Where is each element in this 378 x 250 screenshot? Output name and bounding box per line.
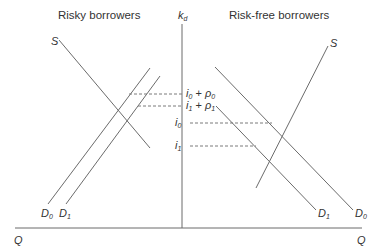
rate-label-i0: i0 bbox=[175, 117, 181, 129]
rate-operator: + bbox=[192, 99, 205, 111]
left-supply-label: S bbox=[51, 36, 58, 47]
axis-label-sub: d bbox=[184, 15, 188, 22]
rate-premium-sub: 0 bbox=[211, 93, 215, 100]
rate-sub: 1 bbox=[177, 145, 181, 152]
left-demand-d0-curve bbox=[48, 68, 150, 204]
label-sub: 0 bbox=[363, 213, 367, 220]
left-d0-label: D0 bbox=[41, 208, 53, 220]
label-sub: 1 bbox=[326, 213, 330, 220]
right-d1-label: D1 bbox=[318, 208, 330, 220]
rate-operator: + bbox=[192, 87, 205, 99]
right-panel-title: Risk-free borrowers bbox=[229, 10, 329, 22]
horizontal-axis-label-right: Q bbox=[357, 235, 366, 246]
right-demand-d1-curve bbox=[216, 106, 316, 210]
left-d1-label: D1 bbox=[59, 208, 71, 220]
right-d0-label: D0 bbox=[355, 208, 367, 220]
horizontal-axis-label-left: Q bbox=[14, 235, 23, 246]
left-demand-d1-curve bbox=[66, 76, 160, 204]
left-panel-title: Risky borrowers bbox=[58, 10, 140, 22]
right-demand-d0-curve bbox=[215, 67, 353, 210]
vertical-axis-label: kd bbox=[178, 10, 187, 22]
label-base: D bbox=[41, 207, 49, 219]
label-sub: 0 bbox=[49, 213, 53, 220]
label-base: D bbox=[355, 207, 363, 219]
label-base: D bbox=[59, 207, 67, 219]
rate-sub: 0 bbox=[177, 122, 181, 129]
right-supply-label: S bbox=[330, 38, 337, 49]
rate-premium-sub: 1 bbox=[211, 105, 215, 112]
label-base: D bbox=[318, 207, 326, 219]
right-supply-curve bbox=[256, 46, 328, 188]
label-sub: 1 bbox=[67, 213, 71, 220]
rate-label-i1-plus-rho1: i1 + ρ1 bbox=[186, 100, 215, 112]
rate-label-i1: i1 bbox=[175, 140, 181, 152]
